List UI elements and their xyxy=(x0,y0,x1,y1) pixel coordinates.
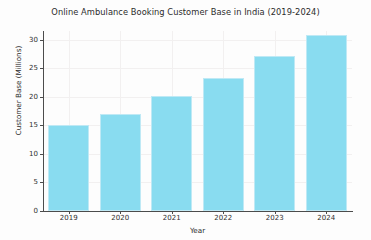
y-tick-label: 20 xyxy=(29,93,38,101)
chart-figure: Online Ambulance Booking Customer Base i… xyxy=(0,0,371,240)
x-tick-label: 2024 xyxy=(301,214,351,222)
x-axis-label: Year xyxy=(43,226,352,235)
x-axis-spine xyxy=(43,211,353,212)
x-tick-label: 2021 xyxy=(147,214,197,222)
x-tick-label: 2019 xyxy=(44,214,94,222)
bar-2023 xyxy=(254,56,295,211)
y-tick-label: 15 xyxy=(29,121,38,129)
y-tick-mark xyxy=(40,125,43,126)
y-tick-mark xyxy=(40,182,43,183)
y-tick-mark xyxy=(40,40,43,41)
y-tick-label: 25 xyxy=(29,64,38,72)
bar-2024 xyxy=(306,35,347,211)
bar-2022 xyxy=(203,78,244,211)
y-tick-mark xyxy=(40,68,43,69)
y-tick-mark xyxy=(40,211,43,212)
plot-area xyxy=(43,31,352,211)
y-tick-label: 10 xyxy=(29,150,38,158)
bar-2019 xyxy=(48,125,89,211)
bar-series xyxy=(43,31,352,211)
bar-2021 xyxy=(151,96,192,211)
x-tick-label: 2022 xyxy=(198,214,248,222)
bar-2020 xyxy=(100,114,141,211)
y-axis-tick-labels: 051015202530 xyxy=(20,0,38,240)
chart-title: Online Ambulance Booking Customer Base i… xyxy=(0,7,371,17)
y-tick-label: 30 xyxy=(29,36,38,44)
y-tick-mark xyxy=(40,154,43,155)
y-axis-spine xyxy=(43,31,44,212)
y-tick-label: 5 xyxy=(34,178,38,186)
y-axis-label: Customer Base (Millions) xyxy=(14,21,23,161)
x-tick-label: 2023 xyxy=(250,214,300,222)
y-tick-mark xyxy=(40,97,43,98)
x-tick-label: 2020 xyxy=(95,214,145,222)
y-tick-label: 0 xyxy=(34,207,38,215)
